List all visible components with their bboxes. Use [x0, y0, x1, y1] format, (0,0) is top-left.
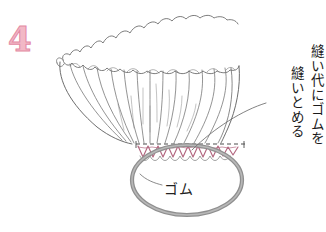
annotation-text-column-1: 縫い代にゴムを: [309, 44, 324, 146]
gathered-ruffle-edge: [56, 15, 239, 73]
sewing-step-illustration: [0, 0, 326, 232]
annotation-text-column-2: 縫いとめる: [289, 66, 304, 139]
step-number: 4: [8, 22, 32, 56]
elastic-leader-line: [140, 174, 162, 185]
fabric-fold-lines: [70, 64, 226, 143]
elastic-label: ゴム: [164, 178, 194, 198]
